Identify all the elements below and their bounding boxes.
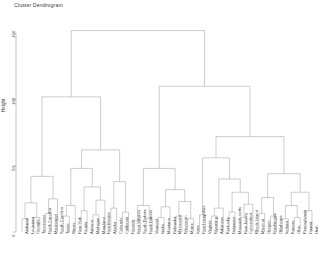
leaf-label: Connecticut: [248, 213, 253, 234]
dendrogram-link: [82, 150, 120, 182]
leaf-label: West Virginia: [136, 210, 141, 234]
leaf-label: South Carolina: [59, 207, 64, 234]
dendrogram-link: [143, 168, 175, 205]
leaf-label: North Carolina: [47, 208, 52, 234]
leaf-label: New Jersey: [243, 213, 248, 234]
leaf-label: North Dakota: [148, 210, 153, 234]
leaf-label: Wyoming: [213, 217, 218, 234]
leaf-label: Alaska: [112, 222, 117, 234]
leaf-label: Washington: [272, 213, 277, 234]
leaf-label: Michigan: [95, 218, 100, 234]
dendrogram-plot: Cluster Dendrogram Height 050100150 Alab…: [0, 0, 318, 270]
dendrogram-link: [285, 206, 297, 219]
leaf-label: Vermont: [154, 219, 159, 234]
leaf-label: Virginia: [207, 221, 212, 234]
leaf-label: California: [124, 217, 129, 234]
dendrogram-link: [42, 97, 101, 177]
leaf-label: Rhode Island: [254, 210, 259, 234]
leaf-label: Montana: [166, 218, 171, 234]
dendrogram-link: [203, 158, 230, 215]
leaf-label: New York: [77, 217, 82, 234]
leaf-label: Wisconsin: [183, 216, 188, 234]
leaf-label: Maine: [189, 223, 194, 234]
leaf-label: Oklahoma: [278, 216, 283, 235]
dendrogram-link: [291, 192, 309, 211]
leaf-label: Louisiana: [30, 217, 35, 234]
leaf-label: Kentucky: [225, 217, 230, 234]
leaf-label: New Mexico: [106, 212, 111, 234]
leaf-label: Massachusetts: [237, 207, 242, 234]
leaf-label: Nebraska: [172, 217, 177, 234]
leaf-label: Nevada: [130, 220, 135, 234]
leaf-label: Mississippi: [53, 214, 58, 234]
leaf-label: Colorado: [118, 218, 123, 234]
leaf-label: Utah: [314, 225, 318, 234]
leaf-label: New Hampshire: [201, 205, 206, 234]
dendrogram-link: [84, 187, 100, 211]
leaf-label: Florida: [83, 222, 88, 234]
dendrogram-link: [114, 182, 126, 212]
leaf-label: Delaware: [231, 217, 236, 234]
leaf-label: Ohio: [296, 225, 301, 234]
leaf-label: Tennessee: [41, 214, 46, 234]
dendrogram-link: [159, 86, 250, 168]
leaf-label: Arkansas: [219, 217, 224, 234]
leaf-label: Minnesota: [177, 215, 182, 234]
leaf-label: Illinois: [71, 223, 76, 234]
leaf-label: Arizona: [89, 220, 94, 234]
dendrogram-link: [71, 31, 204, 97]
leaf-label: Texas: [65, 223, 70, 234]
dendrogram-link: [216, 137, 284, 174]
dendrogram-link: [219, 179, 240, 208]
leaf-label: Georgia: [35, 220, 40, 234]
leaf-label: Kansas: [290, 220, 295, 234]
leaf-label: Iowa: [195, 225, 200, 234]
leaf-label: Alabama: [24, 218, 29, 234]
leaf-label: South Dakota: [142, 209, 147, 234]
leaf-label: Maryland: [101, 217, 106, 234]
leaf-label: Idaho: [160, 224, 165, 234]
dendrogram-link: [268, 174, 301, 198]
leaf-label: Oregon: [266, 220, 271, 234]
dendrogram-link: [166, 190, 185, 207]
leaf-label: Missouri: [260, 219, 265, 234]
leaf-label: Pennsylvania: [302, 210, 307, 234]
leaf-label: Indiana: [284, 221, 289, 234]
leaf-label: Hawaii: [308, 222, 313, 234]
